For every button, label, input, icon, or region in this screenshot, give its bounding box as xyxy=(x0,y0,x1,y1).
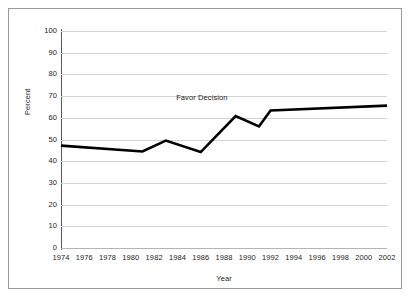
x-tick-label-1978: 1978 xyxy=(99,254,116,262)
y-tick-label-40: 40 xyxy=(13,157,57,165)
x-tick-label-1996: 1996 xyxy=(309,254,326,262)
x-tick-label-1982: 1982 xyxy=(146,254,163,262)
x-tick-label-1974: 1974 xyxy=(52,254,69,262)
gridline-0 xyxy=(61,248,387,249)
y-tick-label-90: 90 xyxy=(13,49,57,57)
y-tick-label-80: 80 xyxy=(13,71,57,79)
y-tick-label-10: 10 xyxy=(13,223,57,231)
x-tick-label-1988: 1988 xyxy=(215,254,232,262)
y-tick-label-50: 50 xyxy=(13,136,57,144)
data-line-svg xyxy=(61,31,387,248)
x-axis-tick-labels: 1974197619781980198219841986198819901992… xyxy=(61,254,387,266)
y-tick-label-100: 100 xyxy=(13,27,57,35)
plot-area: Favor Decision xyxy=(61,31,387,248)
x-axis-title: Year xyxy=(61,274,387,283)
x-tick-label-2002: 2002 xyxy=(378,254,395,262)
x-tick-label-1994: 1994 xyxy=(285,254,302,262)
x-tick-label-2000: 2000 xyxy=(355,254,372,262)
x-tick-label-1992: 1992 xyxy=(262,254,279,262)
x-tick-label-1998: 1998 xyxy=(332,254,349,262)
x-tick-label-1976: 1976 xyxy=(76,254,93,262)
y-tick-label-20: 20 xyxy=(13,201,57,209)
y-axis-title: Percent xyxy=(23,88,32,115)
series-line-favor-decision xyxy=(61,106,387,152)
chart-figure: 0102030405060708090100 Percent Favor Dec… xyxy=(8,8,402,289)
x-tick-label-1990: 1990 xyxy=(239,254,256,262)
series-annotation-label: Favor Decision xyxy=(176,93,227,102)
x-tick-label-1984: 1984 xyxy=(169,254,186,262)
x-tick-label-1986: 1986 xyxy=(192,254,209,262)
y-tick-label-60: 60 xyxy=(13,114,57,122)
y-tick-label-30: 30 xyxy=(13,179,57,187)
y-axis-tick-labels: 0102030405060708090100 xyxy=(9,31,57,248)
y-tick-label-0: 0 xyxy=(13,244,57,252)
y-tick-label-70: 70 xyxy=(13,92,57,100)
x-tick-label-1980: 1980 xyxy=(122,254,139,262)
